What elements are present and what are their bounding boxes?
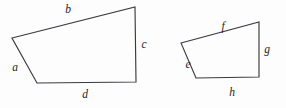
edge-label-a: a [12,62,18,74]
shapes-svg [0,0,286,108]
edge-label-e: e [185,59,190,71]
edge-label-g: g [264,44,270,56]
edge-label-b: b [65,4,71,16]
quadrilateral-left-outline [12,7,136,83]
edge-label-d: d [82,89,88,101]
edge-label-c: c [141,39,146,51]
edge-label-f: f [221,21,224,33]
edge-label-h: h [229,87,235,99]
geometry-figure-canvas: a b c d e f g h [0,0,286,108]
quadrilateral-right-outline [181,22,259,78]
